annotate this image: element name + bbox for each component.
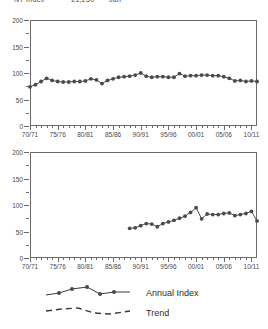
y-tick-label-bottom: 150 (12, 175, 23, 182)
x-minor-tick-top (102, 126, 103, 128)
x-minor-tick-top (240, 126, 241, 128)
data-point-top (150, 75, 154, 79)
x-minor-tick-bottom (202, 258, 203, 260)
x-minor-tick-top (108, 126, 109, 128)
data-point-top (50, 79, 54, 83)
y-axis-bottom: 050100150200 (0, 152, 30, 258)
data-point-top (144, 74, 148, 78)
y-tick-label-top: 0 (19, 123, 23, 130)
y-tick-top (24, 126, 29, 127)
x-minor-tick-bottom (185, 258, 186, 260)
data-point-bottom (183, 214, 187, 218)
data-point-bottom (244, 212, 248, 216)
y-minor-tick-bottom (26, 245, 29, 246)
data-point-top (178, 72, 182, 76)
data-point-bottom (227, 211, 231, 215)
x-tick-bottom (58, 258, 59, 262)
y-minor-tick-bottom (26, 192, 29, 193)
data-point-bottom (211, 213, 215, 217)
legend-swatch-annual-index (44, 284, 132, 302)
x-minor-tick-bottom (157, 258, 158, 260)
data-point-top (128, 74, 132, 78)
x-tick-label-top: 05/06 (216, 131, 232, 138)
legend-swatch-trend (44, 304, 132, 322)
data-point-top (194, 74, 198, 78)
x-minor-tick-top (135, 126, 136, 128)
x-minor-tick-bottom (36, 258, 37, 260)
x-tick-top (168, 126, 169, 130)
data-point-top (122, 75, 126, 79)
data-point-top (28, 85, 32, 89)
x-minor-tick-bottom (41, 258, 42, 260)
x-minor-tick-bottom (229, 258, 230, 260)
y-tick-label-top: 200 (12, 17, 23, 24)
y-tick-label-bottom: 200 (12, 149, 23, 156)
y-minor-tick-bottom (26, 165, 29, 166)
data-point-top (155, 75, 159, 79)
y-tick-label-bottom: 50 (16, 228, 23, 235)
x-minor-tick-top (91, 126, 92, 128)
y-tick-bottom (24, 205, 29, 206)
data-point-top (161, 75, 165, 79)
x-tick-bottom (196, 258, 197, 262)
series-path-bottom (130, 208, 257, 229)
x-minor-tick-top (218, 126, 219, 128)
y-tick-bottom (24, 232, 29, 233)
x-tick-label-top: 70/71 (22, 131, 38, 138)
x-tick-top (196, 126, 197, 130)
y-tick-bottom (24, 258, 29, 259)
x-minor-tick-bottom (179, 258, 180, 260)
legend-line-dashed-icon (44, 304, 132, 322)
x-minor-tick-top (52, 126, 53, 128)
x-minor-tick-top (63, 126, 64, 128)
data-point-top (227, 76, 231, 80)
data-point-bottom (200, 217, 204, 221)
y-minor-tick-top (26, 113, 29, 114)
legend-line-solid-icon (44, 284, 132, 302)
data-point-top (56, 80, 60, 84)
x-minor-tick-bottom (235, 258, 236, 260)
data-point-top (183, 74, 187, 78)
x-minor-tick-top (146, 126, 147, 128)
x-minor-tick-top (124, 126, 125, 128)
x-axis-top: 70/7175/7680/8185/8690/9195/9600/0105/06… (30, 126, 257, 142)
series-line-bottom (30, 152, 257, 258)
y-tick-label-top: 150 (12, 43, 23, 50)
x-minor-tick-bottom (74, 258, 75, 260)
x-minor-tick-top (96, 126, 97, 128)
chart-panel-bottom: 050100150200 70/7175/7680/8185/8690/9195… (0, 146, 268, 277)
y-tick-top (24, 47, 29, 48)
x-tick-label-top: 95/96 (160, 131, 176, 138)
data-point-bottom (161, 222, 165, 226)
x-tick-bottom (85, 258, 86, 262)
x-minor-tick-top (179, 126, 180, 128)
x-minor-tick-bottom (69, 258, 70, 260)
x-tick-bottom (168, 258, 169, 262)
y-tick-top (24, 20, 29, 21)
x-tick-bottom (141, 258, 142, 262)
x-minor-tick-bottom (47, 258, 48, 260)
x-minor-tick-top (47, 126, 48, 128)
legend-label-trend: Trend (146, 308, 169, 318)
data-point-top (106, 79, 110, 83)
y-tick-top (24, 73, 29, 74)
data-point-top (45, 76, 49, 80)
x-minor-tick-bottom (63, 258, 64, 260)
data-point-bottom (255, 219, 259, 223)
y-tick-label-top: 100 (12, 70, 23, 77)
data-point-top (111, 77, 115, 81)
x-tick-label-bottom: 90/91 (133, 263, 149, 270)
x-minor-tick-top (213, 126, 214, 128)
x-tick-bottom (251, 258, 252, 262)
x-tick-label-top: 10/11 (244, 131, 260, 138)
data-point-top (139, 71, 143, 75)
x-minor-tick-bottom (246, 258, 247, 260)
data-point-bottom (133, 226, 137, 230)
x-tick-bottom (224, 258, 225, 262)
x-tick-label-bottom: 05/06 (216, 263, 232, 270)
data-point-top (233, 79, 237, 83)
x-minor-tick-bottom (135, 258, 136, 260)
x-tick-label-bottom: 95/96 (160, 263, 176, 270)
x-minor-tick-bottom (191, 258, 192, 260)
y-tick-top (24, 100, 29, 101)
